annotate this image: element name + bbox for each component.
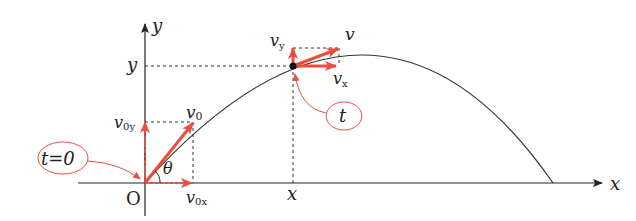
y-axis-label: y: [151, 15, 163, 36]
t0-callout-label: t=0: [41, 148, 75, 169]
moment-point: [290, 63, 297, 70]
trajectory-curve: [145, 55, 553, 183]
x-tick-label: x: [287, 183, 297, 204]
projectile-diagram: x y O θ v0 v0y v0x t=0 v vy: [0, 0, 636, 221]
t-callout-label: t: [339, 105, 347, 126]
t0-callout-pointer: [88, 161, 140, 179]
v0-label: v0: [186, 102, 203, 123]
moment-guides: [145, 48, 339, 183]
angle-arc: [155, 171, 160, 183]
v-label: v: [345, 24, 355, 44]
vx-label: vx: [333, 69, 348, 89]
x-axis-label: x: [610, 173, 620, 194]
v0y-label: v0y: [114, 113, 135, 132]
vy-label: vy: [270, 31, 285, 51]
origin-label: O: [126, 188, 141, 209]
t-callout-pointer: [295, 74, 326, 113]
y-tick-label: y: [126, 54, 138, 75]
v0x-label: v0x: [186, 188, 207, 207]
angle-label: θ: [163, 159, 173, 178]
